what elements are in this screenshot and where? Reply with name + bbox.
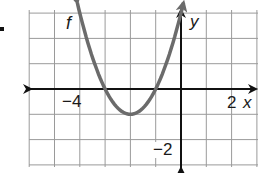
graph-svg <box>0 0 258 173</box>
x-axis-label: x <box>243 95 252 111</box>
function-label-f: f <box>66 15 71 31</box>
x-tick-label-2: 2 <box>227 95 236 111</box>
x-tick-label-neg4: −4 <box>62 94 81 110</box>
y-tick-label-neg2: −2 <box>152 142 173 158</box>
coordinate-graph: f y x −4 2 −2 <box>0 0 258 173</box>
y-axis-label: y <box>190 14 199 30</box>
